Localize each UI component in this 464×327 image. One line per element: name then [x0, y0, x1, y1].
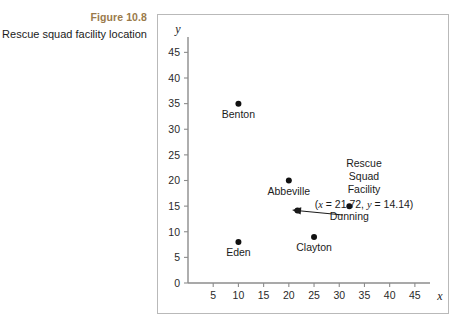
coord-x-value: = 21.72,: [326, 198, 364, 210]
x-tick-label: 40: [384, 289, 396, 301]
chart-panel: 051015202530354045 51015202530354045 y x…: [157, 14, 449, 314]
figure-number: Figure 10.8: [0, 10, 150, 24]
x-tick-label: 35: [359, 289, 371, 301]
y-tick-label: 30: [168, 123, 180, 135]
x-axis-label: x: [436, 289, 443, 303]
data-point: [311, 234, 317, 240]
data-point-group: BentonAbbevilleEdenClaytonDunning: [222, 101, 369, 258]
annotation-line-1: Rescue: [346, 157, 382, 169]
annotation-line-3: Facility: [348, 183, 381, 195]
data-point-label: Clayton: [296, 241, 332, 253]
x-tick-label: 20: [283, 289, 295, 301]
coord-y-value: = 14.14): [375, 198, 414, 210]
y-tick-label: 10: [168, 226, 180, 238]
data-point-label: Eden: [226, 246, 251, 258]
x-tick-label: 45: [409, 289, 421, 301]
data-point: [235, 101, 241, 107]
y-axis-ticks: 051015202530354045: [168, 46, 188, 289]
figure-title: Rescue squad facility location: [0, 27, 150, 42]
y-tick-label: 35: [168, 97, 180, 109]
x-tick-label: 5: [210, 289, 216, 301]
y-tick-label: 40: [168, 72, 180, 84]
y-tick-label: 15: [168, 200, 180, 212]
x-axis-ticks: 51015202530354045: [210, 283, 421, 301]
data-point-label: Dunning: [330, 210, 369, 222]
y-tick-label: 45: [168, 46, 180, 58]
x-tick-label: 25: [308, 289, 320, 301]
y-tick-label: 20: [168, 174, 180, 186]
y-tick-label: 25: [168, 149, 180, 161]
annotation-line-2: Squad: [349, 170, 380, 182]
figure-caption: Figure 10.8 Rescue squad facility locati…: [0, 10, 150, 42]
scatter-plot: 051015202530354045 51015202530354045 y x…: [158, 15, 448, 313]
data-point: [235, 239, 241, 245]
annotation-coordinates: (x = 21.72, y = 14.14): [315, 198, 414, 210]
x-tick-label: 15: [258, 289, 270, 301]
x-tick-label: 30: [333, 289, 345, 301]
data-point-label: Benton: [222, 108, 255, 120]
x-tick-label: 10: [233, 289, 245, 301]
y-tick-label: 5: [174, 251, 180, 263]
data-point-label: Abbeville: [268, 185, 311, 197]
facility-annotation: Rescue Squad Facility (x = 21.72, y = 14…: [292, 157, 413, 215]
y-axis-label: y: [174, 22, 181, 36]
y-tick-label: 0: [174, 277, 180, 289]
data-point: [286, 178, 292, 184]
